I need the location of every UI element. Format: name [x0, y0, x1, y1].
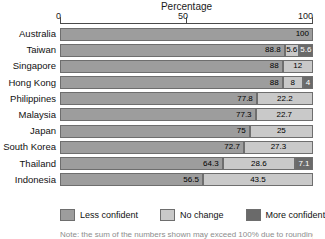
- bar-segment-value: 56.5: [183, 176, 202, 184]
- bar-segment: 88: [60, 76, 283, 89]
- row-label: Singapore: [0, 59, 56, 73]
- row-label: Australia: [0, 27, 56, 41]
- stacked-bar: 8884: [60, 76, 313, 89]
- stacked-bar: 7525: [60, 125, 313, 138]
- legend-item: No change: [160, 209, 224, 221]
- bar-segment-value: 77.8: [237, 95, 256, 103]
- row-label: Philippines: [0, 92, 56, 106]
- stacked-bar: 56.543.5: [60, 173, 313, 186]
- stacked-bar: 64.328.67.1: [60, 157, 313, 170]
- bar-segment-value: 4: [304, 79, 312, 87]
- bar-segment-value: 5.6: [300, 46, 312, 54]
- bar-segment-value: 100: [296, 30, 312, 38]
- row-label: Malaysia: [0, 108, 56, 122]
- chart-rows: Australia100Taiwan88.85.65.6Singapore881…: [0, 26, 321, 188]
- chart-row: Indonesia56.543.5: [0, 172, 321, 188]
- stacked-bar: 100: [60, 28, 313, 41]
- legend-label: More confident: [266, 210, 325, 220]
- row-label: Thailand: [0, 157, 56, 171]
- bar-segment: 72.7: [60, 141, 244, 154]
- chart-row: Philippines77.822.2: [0, 91, 321, 107]
- bar-segment-value: 88: [270, 62, 282, 70]
- chart-footnote: Note: the sum of the numbers shown may e…: [60, 230, 313, 239]
- row-label: Hong Kong: [0, 76, 56, 90]
- bar-segment-value: 27.3: [245, 143, 312, 151]
- bar-segment: 27.3: [244, 141, 313, 154]
- bar-segment: 12: [283, 60, 313, 73]
- bar-segment-value: 28.6: [224, 160, 294, 168]
- bar-segment: 8: [283, 76, 303, 89]
- legend-label: Less confident: [80, 210, 138, 220]
- x-axis-tick-100: [312, 17, 313, 23]
- bar-segment-value: 72.7: [224, 143, 243, 151]
- bar-segment-value: 22.7: [257, 111, 312, 119]
- bar-segment: 88.8: [60, 44, 285, 57]
- row-label: Taiwan: [0, 43, 56, 57]
- bar-segment: 56.5: [60, 173, 203, 186]
- bar-segment: 100: [60, 28, 313, 41]
- x-axis-tick-0: [60, 17, 61, 23]
- row-label: Japan: [0, 124, 56, 138]
- legend-swatch-icon: [160, 209, 175, 221]
- bar-segment-value: 22.2: [258, 95, 312, 103]
- bar-segment: 22.2: [257, 92, 313, 105]
- bar-segment-value: 88: [270, 79, 282, 87]
- stacked-bar: 77.322.7: [60, 108, 313, 121]
- bar-segment-value: 5.6: [286, 46, 298, 54]
- stacked-bar: 8812: [60, 60, 313, 73]
- bar-segment: 5.6: [299, 44, 313, 57]
- bar-segment: 43.5: [203, 173, 313, 186]
- chart-row: Thailand64.328.67.1: [0, 156, 321, 172]
- legend-item: More confident: [246, 209, 325, 221]
- bar-segment: 22.7: [256, 108, 313, 121]
- legend-swatch-icon: [246, 209, 261, 221]
- bar-segment: 64.3: [60, 157, 223, 170]
- bar-segment: 28.6: [223, 157, 295, 170]
- bar-segment-value: 88.8: [265, 46, 284, 54]
- bar-segment: 77.8: [60, 92, 257, 105]
- bar-segment-value: 75: [237, 127, 249, 135]
- bar-segment: 75: [60, 125, 250, 138]
- x-tick-label-100: 100: [298, 11, 313, 21]
- bar-segment-value: 77.3: [236, 111, 255, 119]
- chart-row: Australia100: [0, 26, 321, 42]
- stacked-bar: 88.85.65.6: [60, 44, 313, 57]
- chart-legend: Less confidentNo changeMore confident: [60, 207, 313, 222]
- row-label: Indonesia: [0, 173, 56, 187]
- chart-row: Hong Kong8884: [0, 75, 321, 91]
- chart-row: Japan7525: [0, 123, 321, 139]
- bar-segment: 7.1: [295, 157, 313, 170]
- bar-segment-value: 7.1: [296, 160, 312, 168]
- bar-segment: 77.3: [60, 108, 256, 121]
- bar-segment-value: 43.5: [204, 176, 312, 184]
- legend-label: No change: [180, 210, 224, 220]
- chart-row: Malaysia77.322.7: [0, 107, 321, 123]
- chart-row: South Korea72.727.3: [0, 139, 321, 155]
- row-label: South Korea: [0, 140, 56, 154]
- bar-segment: 25: [250, 125, 313, 138]
- legend-item: Less confident: [60, 209, 138, 221]
- stacked-bar: 77.822.2: [60, 92, 313, 105]
- chart-row: Taiwan88.85.65.6: [0, 42, 321, 58]
- bar-segment-value: 25: [251, 127, 312, 135]
- bar-segment-value: 12: [284, 62, 312, 70]
- bar-segment: 88: [60, 60, 283, 73]
- chart-row: Singapore8812: [0, 58, 321, 74]
- bar-segment: 4: [303, 76, 313, 89]
- x-axis-line: [60, 23, 313, 24]
- bar-segment: 5.6: [285, 44, 299, 57]
- x-axis-tick-50: [186, 17, 187, 23]
- legend-swatch-icon: [60, 209, 75, 221]
- bar-segment-value: 64.3: [203, 160, 222, 168]
- bar-segment-value: 8: [284, 79, 302, 87]
- stacked-bar: 72.727.3: [60, 141, 313, 154]
